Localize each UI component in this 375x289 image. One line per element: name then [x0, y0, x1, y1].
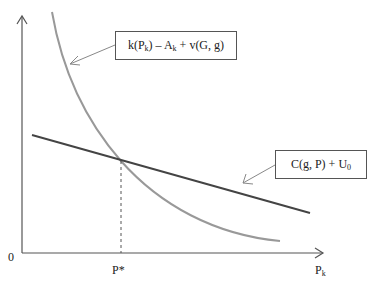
x-axis-label-sub: k	[322, 269, 326, 278]
curve-label-part: + v(G, g)	[177, 38, 224, 52]
line-label-text: C(g, P) + U0	[291, 157, 351, 172]
curve-label-pointer	[70, 45, 115, 64]
line-label-sub: 0	[347, 163, 351, 172]
line-label-box: C(g, P) + U0	[275, 150, 367, 179]
curve-label-part: k(P	[128, 38, 145, 52]
line-label-pointer	[243, 165, 275, 183]
curve-label-text: k(Pk) – Ak + v(G, g)	[128, 38, 224, 53]
equilibrium-price-label: P*	[112, 263, 125, 278]
x-axis-label: Pk	[315, 263, 326, 278]
x-axis-label-main: P	[315, 263, 322, 277]
curve-label-box: k(Pk) – Ak + v(G, g)	[115, 31, 237, 60]
cost-line	[32, 135, 310, 213]
origin-label: 0	[8, 250, 14, 265]
line-label-part: C(g, P) + U	[291, 157, 347, 171]
curve-label-part: ) – A	[149, 38, 173, 52]
